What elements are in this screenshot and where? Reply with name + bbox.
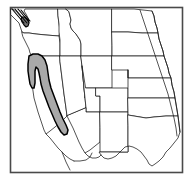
state-oregon [22, 32, 60, 56]
state-north-dakota [112, 9, 158, 33]
state-nebraska [112, 56, 171, 78]
states-layer [11, 9, 180, 170]
state-oklahoma [128, 98, 178, 118]
range-map-figure [0, 0, 184, 180]
state-arizona [67, 108, 100, 153]
state-colorado [96, 88, 128, 112]
state-new-mexico [100, 112, 128, 152]
map-canvas [0, 0, 184, 180]
state-south-dakota [112, 32, 164, 56]
